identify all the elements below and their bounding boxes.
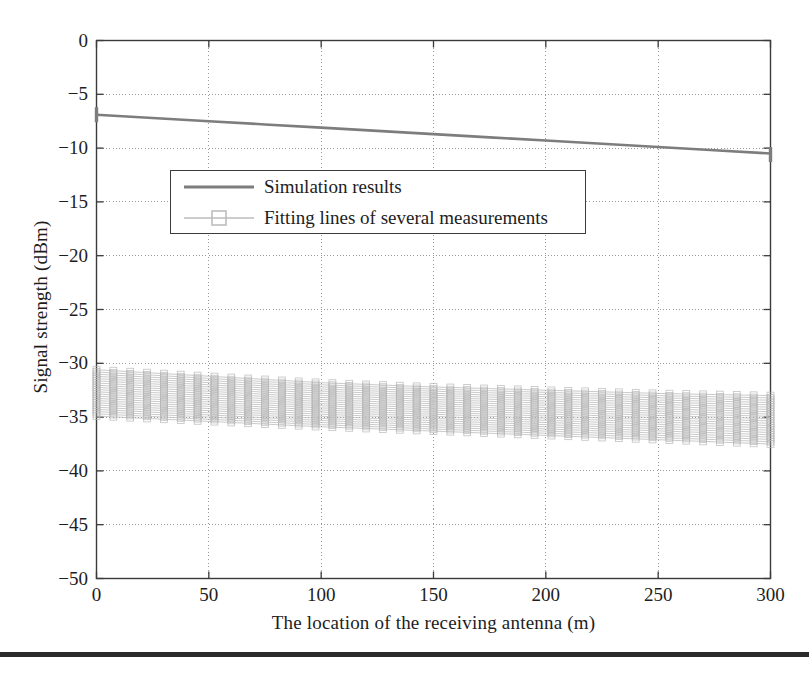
figure-container: Signal strength (dBm) The location of th… bbox=[0, 0, 809, 675]
legend-box[interactable]: Simulation results Fitting lines of seve… bbox=[170, 170, 586, 234]
legend-entry-fitting[interactable]: Fitting lines of several measurements bbox=[171, 202, 585, 234]
line-square-marker-sample bbox=[180, 203, 258, 233]
series-simulation-results bbox=[97, 107, 771, 162]
footer-divider-rule bbox=[0, 652, 809, 657]
series-fitting-lines bbox=[93, 366, 774, 447]
legend-entry-simulation[interactable]: Simulation results bbox=[171, 171, 585, 203]
legend-label-fitting: Fitting lines of several measurements bbox=[264, 207, 548, 229]
solid-line-sample bbox=[180, 172, 258, 202]
legend-label-simulation: Simulation results bbox=[264, 176, 402, 198]
plot-area bbox=[0, 0, 809, 675]
